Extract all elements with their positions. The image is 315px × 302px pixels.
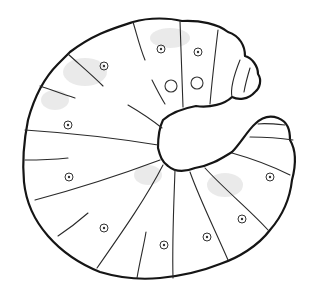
shading xyxy=(207,173,243,197)
leg-base-circle xyxy=(191,77,203,89)
shading xyxy=(150,28,190,48)
shading xyxy=(41,90,69,110)
grub-illustration xyxy=(0,0,315,302)
shading xyxy=(63,58,107,86)
grub-drawing xyxy=(0,0,315,302)
leg-base-circle xyxy=(165,80,177,92)
grub-body-outline xyxy=(23,19,295,279)
